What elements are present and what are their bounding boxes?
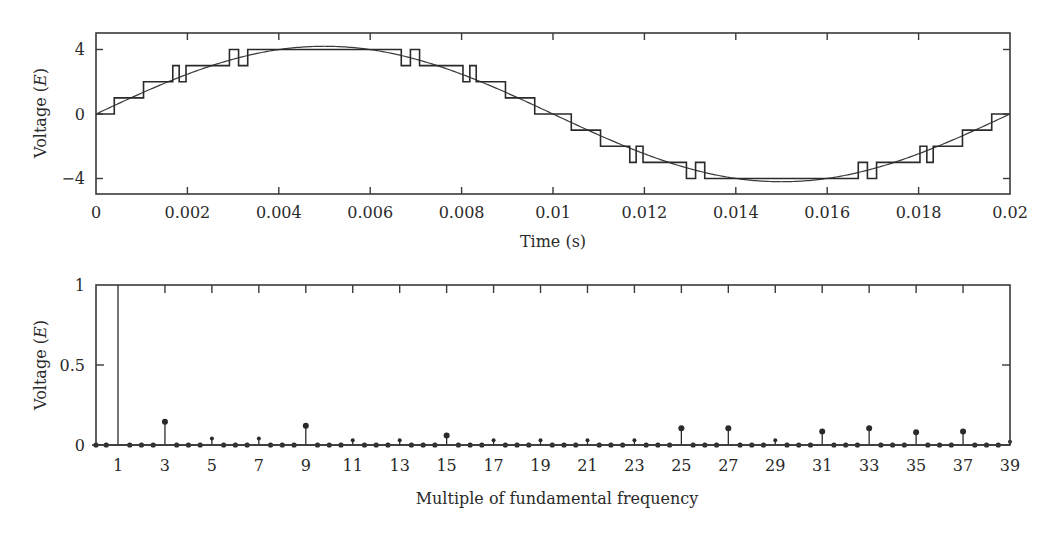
- harmonic-point-29: [773, 438, 777, 442]
- harmonic-point-23: [632, 438, 636, 442]
- y-tick-label: −4: [61, 169, 85, 188]
- harmonic-point-17: [492, 438, 496, 442]
- x-tick-label: 25: [671, 456, 691, 475]
- x-tick-label: 0.018: [896, 203, 942, 222]
- harmonic-point-13: [398, 438, 402, 442]
- x-tick-label: 31: [812, 456, 832, 475]
- spectrum-axis-ticks: [96, 285, 1010, 365]
- x-tick-label: 17: [483, 456, 503, 475]
- time-x-tick-labels: 00.0020.0040.0060.0080.010.0120.0140.016…: [91, 203, 1028, 222]
- harmonic-point-3: [162, 419, 168, 425]
- x-tick-label: 3: [160, 456, 170, 475]
- x-tick-label: 0: [91, 203, 101, 222]
- time-y-axis-label: Voltage (E): [31, 68, 50, 159]
- x-tick-label: 13: [390, 456, 410, 475]
- y-tick-label: 4: [75, 40, 85, 59]
- harmonic-point-11: [351, 438, 355, 442]
- time-domain-chart: 00.0020.0040.0060.0080.010.0120.0140.016…: [31, 33, 1028, 251]
- spectrum-plot-area: [92, 285, 1012, 448]
- x-tick-label: 7: [254, 456, 264, 475]
- x-tick-label: 0.004: [256, 203, 302, 222]
- x-tick-label: 0.006: [347, 203, 393, 222]
- staircase-waveform-line: [96, 50, 1010, 179]
- x-tick-label: 21: [577, 456, 597, 475]
- harmonic-point-7: [257, 437, 261, 441]
- x-tick-label: 0.02: [992, 203, 1028, 222]
- harmonic-point-21: [585, 438, 589, 442]
- y-tick-label: 0.5: [60, 356, 85, 375]
- x-tick-label: 15: [436, 456, 456, 475]
- spectrum-plot-frame: [96, 285, 1010, 445]
- x-tick-label: 23: [624, 456, 644, 475]
- x-tick-label: 0.01: [535, 203, 571, 222]
- x-tick-label: 37: [953, 456, 973, 475]
- spectrum-x-axis-label: Multiple of fundamental frequency: [416, 489, 699, 508]
- x-tick-label: 27: [718, 456, 738, 475]
- y-tick-label: 0: [75, 105, 85, 124]
- x-tick-label: 35: [906, 456, 926, 475]
- harmonic-point-27: [725, 425, 731, 431]
- x-tick-label: 0.016: [804, 203, 850, 222]
- spectrum-y-tick-labels: 00.51: [60, 276, 85, 455]
- harmonic-point-25: [678, 425, 684, 431]
- harmonic-point-37: [960, 428, 966, 434]
- time-y-tick-labels: −404: [61, 40, 85, 188]
- harmonic-spectrum-chart: 13579111315171921232527293133353739 00.5…: [31, 276, 1020, 509]
- x-tick-label: 39: [1000, 456, 1020, 475]
- y-tick-label: 1: [75, 276, 85, 295]
- time-plot-area: [96, 46, 1010, 181]
- x-tick-label: 11: [343, 456, 363, 475]
- x-tick-label: 19: [530, 456, 550, 475]
- x-tick-label: 5: [207, 456, 217, 475]
- x-tick-label: 0.008: [439, 203, 485, 222]
- harmonic-point-33: [866, 425, 872, 431]
- time-x-axis-label: Time (s): [520, 232, 586, 251]
- x-tick-label: 29: [765, 456, 785, 475]
- harmonic-point-5: [210, 437, 214, 441]
- spectrum-x-tick-labels: 13579111315171921232527293133353739: [113, 456, 1020, 475]
- harmonic-point-19: [539, 438, 543, 442]
- figure: 00.0020.0040.0060.0080.010.0120.0140.016…: [0, 0, 1059, 536]
- x-tick-label: 1: [113, 456, 123, 475]
- y-tick-label: 0: [75, 436, 85, 455]
- harmonic-point-9: [303, 423, 309, 429]
- spectrum-y-axis-label: Voltage (E): [31, 320, 50, 411]
- x-tick-label: 0.002: [164, 203, 210, 222]
- harmonic-point-15: [444, 432, 450, 438]
- x-tick-label: 0.012: [621, 203, 667, 222]
- x-tick-label: 9: [301, 456, 311, 475]
- harmonic-point-35: [913, 429, 919, 435]
- harmonic-point-31: [819, 428, 825, 434]
- x-tick-label: 33: [859, 456, 879, 475]
- x-tick-label: 0.014: [713, 203, 759, 222]
